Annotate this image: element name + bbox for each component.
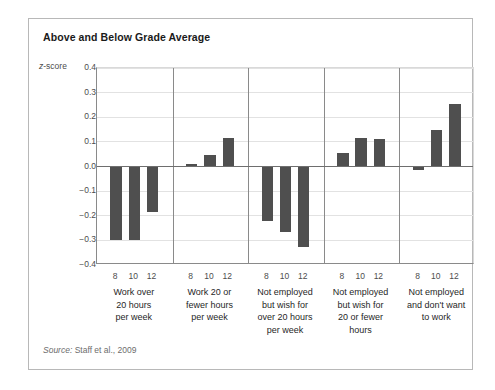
group-caption-line: but wish for (319, 299, 403, 312)
group-caption-line: but wish for (243, 299, 327, 312)
group-caption-line: per week (92, 311, 176, 324)
group-caption: Work over20 hoursper week (92, 286, 176, 324)
y-axis-tick-label: 0.4 (56, 62, 96, 72)
gridline (97, 141, 473, 142)
x-axis-tick-label: 12 (222, 271, 231, 281)
x-axis-tick-label: 12 (147, 271, 156, 281)
gridline (97, 240, 473, 241)
group-caption-line: 20 or fewer (319, 311, 403, 324)
group-caption-line: and don't want (394, 299, 478, 312)
x-axis-tick-label: 10 (204, 271, 213, 281)
bar (129, 167, 140, 241)
x-axis-tick-label: 8 (188, 271, 193, 281)
gridline (97, 92, 473, 93)
group-caption-line: over 20 hours (243, 311, 327, 324)
group-caption-line: per week (243, 324, 327, 337)
group-caption-line: hours (319, 324, 403, 337)
y-axis-tick-label: 0.3 (56, 87, 96, 97)
bar (374, 139, 385, 166)
y-axis-tick-label: 0.1 (56, 136, 96, 146)
source-citation: Staff et al., 2009 (75, 345, 137, 355)
group-caption: Not employedbut wish for20 or fewerhours (319, 286, 403, 336)
group-caption-line: per week (168, 311, 252, 324)
bar (262, 167, 273, 221)
x-axis-tick-label: 8 (415, 271, 420, 281)
group-caption-line: Work over (92, 286, 176, 299)
group-caption-line: Not employed (394, 286, 478, 299)
group-caption: Not employedbut wish forover 20 hoursper… (243, 286, 327, 336)
figure-frame: Above and Below Grade Average z-score 0.… (28, 18, 473, 370)
source-label: Source: (43, 345, 72, 355)
y-axis-tick-label: −0.1 (56, 185, 96, 195)
page-title: Above and Below Grade Average (43, 31, 210, 43)
y-axis-tick-label: 0.0 (56, 161, 96, 171)
x-axis-tick-label: 10 (280, 271, 289, 281)
bar (298, 167, 309, 247)
x-axis-tick-label: 8 (264, 271, 269, 281)
bar (110, 167, 121, 241)
x-axis-tick-label: 8 (113, 271, 118, 281)
bar (337, 153, 348, 167)
bar (204, 155, 215, 166)
group-caption-line: 20 hours (92, 299, 176, 312)
y-axis-tick-label: −0.3 (56, 234, 96, 244)
bar (449, 104, 460, 167)
bar (223, 138, 234, 166)
y-axis-tick-label: −0.4 (56, 259, 96, 269)
zero-baseline (97, 166, 473, 167)
bar (147, 167, 158, 213)
gridline (97, 117, 473, 118)
x-axis-tick-label: 12 (374, 271, 383, 281)
group-caption-line: Work 20 or (168, 286, 252, 299)
group-caption: Not employedand don't wantto work (394, 286, 478, 324)
group-caption-line: Not employed (243, 286, 327, 299)
bar (431, 130, 442, 167)
x-axis-tick-label: 12 (449, 271, 458, 281)
group-caption-line: to work (394, 311, 478, 324)
group-caption-line: fewer hours (168, 299, 252, 312)
bar (280, 167, 291, 232)
y-axis-tick-label: −0.2 (56, 210, 96, 220)
x-axis-tick-label: 8 (340, 271, 345, 281)
y-axis-tick-label: 0.2 (56, 111, 96, 121)
bar (355, 138, 366, 166)
x-axis-tick-label: 12 (298, 271, 307, 281)
bar (413, 167, 424, 171)
gridline (97, 68, 473, 69)
x-axis-tick-label: 10 (431, 271, 440, 281)
group-caption-line: Not employed (319, 286, 403, 299)
source-note: Source: Staff et al., 2009 (43, 345, 136, 355)
plot-area (96, 67, 474, 264)
x-axis-tick-label: 10 (355, 271, 364, 281)
x-axis-tick-label: 10 (129, 271, 138, 281)
group-caption: Work 20 orfewer hoursper week (168, 286, 252, 324)
plot-wrapper: 0.40.30.20.10.0−0.1−0.2−0.3−0.4 81012810… (96, 67, 474, 264)
